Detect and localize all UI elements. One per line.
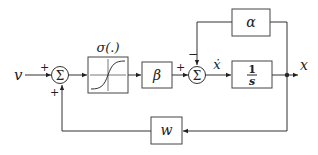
- w-block: w: [151, 117, 182, 144]
- beta-block: β: [142, 62, 172, 88]
- xdot-label: ẋ: [213, 57, 221, 72]
- integrator-denominator: s: [249, 75, 255, 88]
- input-label: v: [14, 66, 23, 84]
- sum1-junction: Σ: [52, 67, 69, 84]
- sum1-plus-left: +: [40, 61, 49, 74]
- alpha-label: α: [246, 14, 256, 30]
- sum1-symbol: Σ: [56, 69, 64, 83]
- alpha-block: α: [232, 9, 270, 36]
- integrator-block: 1 s: [232, 61, 272, 88]
- output-label: x: [300, 57, 308, 73]
- sum2-junction: Σ: [189, 67, 206, 84]
- beta-label: β: [152, 67, 161, 83]
- block-diagram: v + Σ + σ(.) β + Σ − ẋ 1 s x: [0, 0, 318, 155]
- sigma-label: σ(.): [96, 40, 119, 55]
- sum2-plus-left: +: [176, 61, 185, 74]
- sum2-symbol: Σ: [193, 69, 201, 83]
- sum1-plus-bottom: +: [50, 86, 59, 99]
- w-label: w: [161, 122, 173, 138]
- alpha-feedback-in: [270, 22, 287, 75]
- sigma-block: [88, 57, 128, 93]
